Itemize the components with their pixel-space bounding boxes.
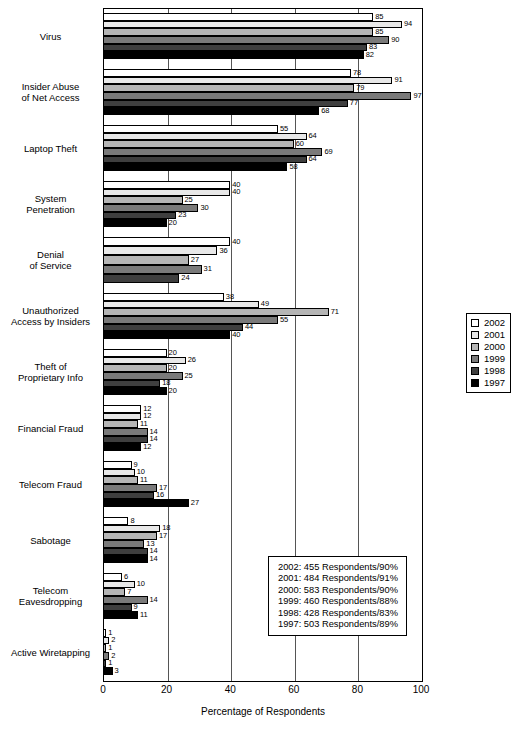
bar-value-label: 91 <box>392 76 402 84</box>
respondents-line-6: 1997: 503 Respondents/89% <box>278 619 398 630</box>
bar <box>103 324 243 332</box>
x-tick-label-40: 40 <box>225 684 236 695</box>
x-tick-label-100: 100 <box>413 684 430 695</box>
bar <box>103 476 138 484</box>
bar-row: 2 <box>103 652 421 660</box>
bar-row: 31 <box>103 265 421 274</box>
bar-value-label: 20 <box>167 349 177 357</box>
bar-value-label: 9 <box>132 603 138 611</box>
category-label-12: Active Wiretapping <box>0 624 101 680</box>
bar-value-label: 20 <box>167 219 177 227</box>
bar-value-label: 55 <box>278 316 288 324</box>
legend-item-2002[interactable]: 2002 <box>471 317 505 329</box>
bar-value-label: 64 <box>307 155 317 163</box>
bar-row: 36 <box>103 246 421 255</box>
bar-value-label: 11 <box>138 420 148 428</box>
bar-row: 30 <box>103 204 421 212</box>
bar-row: 68 <box>103 107 421 115</box>
bar <box>103 484 157 492</box>
bar-row: 40 <box>103 331 421 339</box>
bar-value-label: 25 <box>183 196 193 204</box>
bar <box>103 331 230 339</box>
legend-item-1999[interactable]: 1999 <box>471 353 505 365</box>
category-label-7: Theft of Proprietary Info <box>0 344 101 400</box>
bar-value-label: 71 <box>329 308 339 316</box>
bar <box>103 387 167 395</box>
bar-row: 9 <box>103 461 421 469</box>
bar-row: 40 <box>103 181 421 189</box>
bar <box>103 274 179 283</box>
category-label-text: Active Wiretapping <box>11 647 90 658</box>
bar-row: 12 <box>103 413 421 421</box>
bar <box>103 156 307 164</box>
bar <box>103 667 113 675</box>
legend-swatch-icon <box>471 355 479 363</box>
bar-row: 79 <box>103 84 421 92</box>
legend-label: 1997 <box>484 378 505 388</box>
bar-row: 60 <box>103 140 421 148</box>
bar-row: 55 <box>103 125 421 133</box>
bar <box>103 555 148 563</box>
bar-value-label: 25 <box>183 372 193 380</box>
bar-value-label: 7 <box>125 588 131 596</box>
bar-value-label: 60 <box>294 140 304 148</box>
bar <box>103 469 135 477</box>
bar <box>103 77 392 85</box>
respondents-line-1: 2002: 455 Respondents/90% <box>278 562 398 573</box>
bar-value-label: 78 <box>351 69 361 77</box>
bar-value-label: 20 <box>167 387 177 395</box>
category-label-text: Virus <box>40 31 61 42</box>
bar <box>103 588 125 596</box>
bar-row: 23 <box>103 212 421 220</box>
legend-swatch-icon <box>471 379 479 387</box>
bar-row: 69 <box>103 148 421 156</box>
bar-value-label: 85 <box>373 13 383 21</box>
legend-item-2000[interactable]: 2000 <box>471 341 505 353</box>
bar-value-label: 14 <box>148 555 158 563</box>
bar-value-label: 49 <box>259 300 269 308</box>
bar-row: 55 <box>103 316 421 324</box>
bar-value-label: 38 <box>224 293 234 301</box>
category-label-text: Insider Abuse of Net Access <box>21 81 79 103</box>
x-tick-label-60: 60 <box>288 684 299 695</box>
bar <box>103 219 167 227</box>
bar <box>103 308 329 316</box>
bar-row: 12 <box>103 443 421 451</box>
x-tick-label-20: 20 <box>161 684 172 695</box>
bar-row: 10 <box>103 469 421 477</box>
bar-value-label: 27 <box>189 256 199 264</box>
bar-row: 71 <box>103 308 421 316</box>
bar <box>103 436 148 444</box>
bar-row: 40 <box>103 189 421 197</box>
legend-swatch-icon <box>471 331 479 339</box>
bar-row: 17 <box>103 484 421 492</box>
bar-row: 27 <box>103 499 421 507</box>
bar <box>103 125 278 133</box>
bar <box>103 69 351 77</box>
bar <box>103 517 128 525</box>
category-label-5: Denial of Service <box>0 232 101 288</box>
bar-value-label: 17 <box>157 532 167 540</box>
bar-row: 20 <box>103 364 421 372</box>
bar-value-label: 6 <box>122 573 128 581</box>
category-label-9: Telecom Fraud <box>0 456 101 512</box>
category-label-text: Theft of Proprietary Info <box>18 361 83 383</box>
category-label-text: Denial of Service <box>29 249 71 271</box>
legend-item-2001[interactable]: 2001 <box>471 329 505 341</box>
bar <box>103 92 411 100</box>
bar <box>103 540 144 548</box>
bar-row: 94 <box>103 21 421 29</box>
bar <box>103 84 354 92</box>
bar <box>103 107 319 115</box>
bar-row: 27 <box>103 255 421 264</box>
legend-item-1998[interactable]: 1998 <box>471 365 505 377</box>
bar-row: 20 <box>103 349 421 357</box>
bar-value-label: 10 <box>135 580 145 588</box>
bar-value-label: 3 <box>113 667 119 675</box>
bar <box>103 181 230 189</box>
bar-row: 64 <box>103 133 421 141</box>
bar-row: 18 <box>103 525 421 533</box>
bar-row: 25 <box>103 372 421 380</box>
bar-value-label: 97 <box>411 92 421 100</box>
legend-item-1997[interactable]: 1997 <box>471 377 505 389</box>
